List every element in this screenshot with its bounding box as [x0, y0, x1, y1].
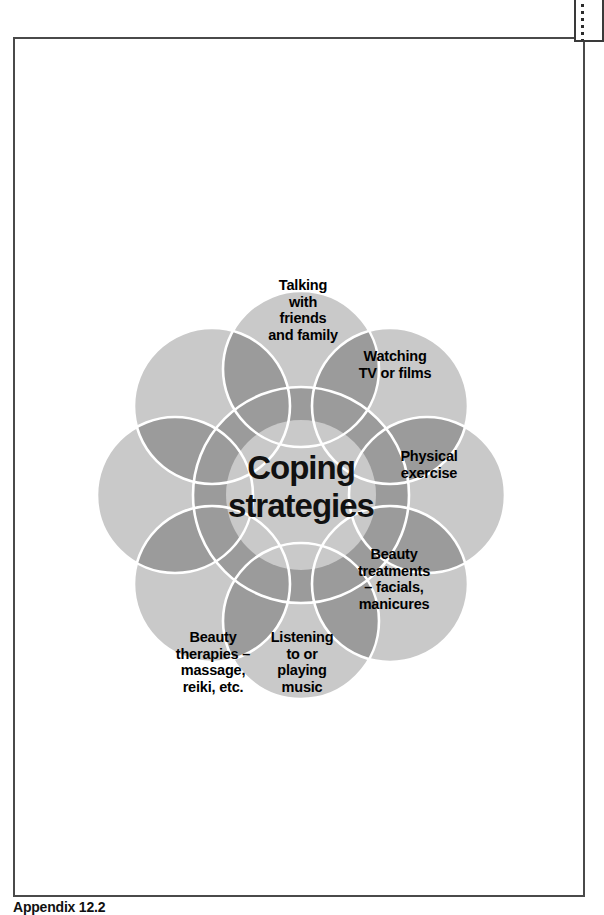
coping-strategies-diagram: Coping strategies Talking with friends a… — [15, 209, 587, 789]
diagram-center-label: Coping strategies — [181, 449, 421, 524]
page-edge-tab — [574, 0, 604, 42]
page-caption: Appendix 12.2 — [13, 899, 105, 915]
document-page-frame: Coping strategies Talking with friends a… — [13, 37, 585, 897]
tab-dots-icon — [581, 4, 584, 42]
